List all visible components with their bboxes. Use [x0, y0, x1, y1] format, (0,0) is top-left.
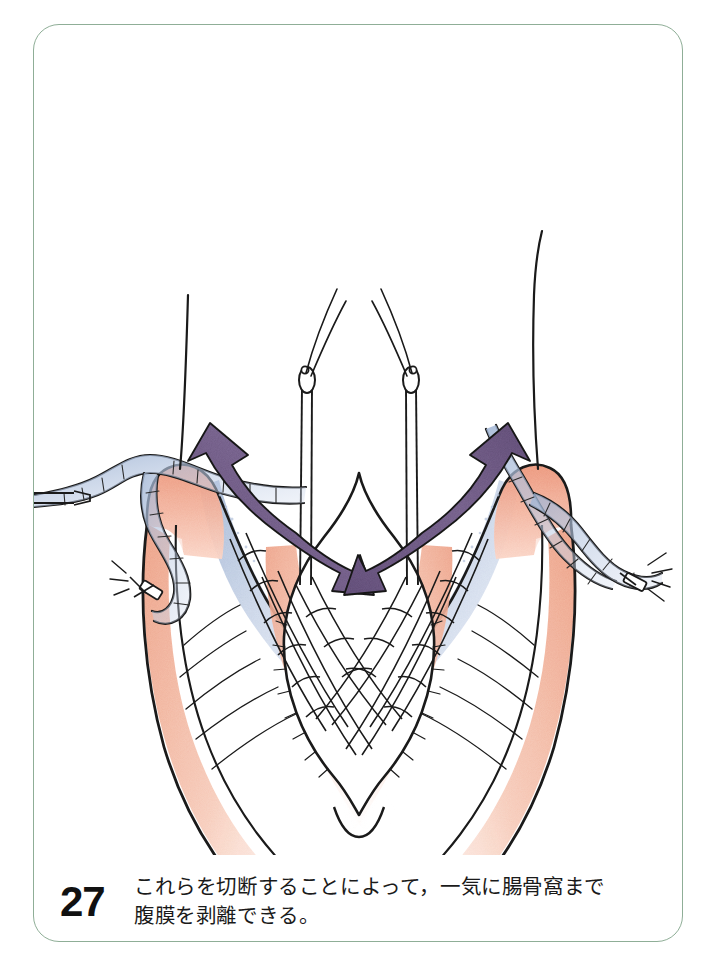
- caption-block: 27 これらを切断することによって，一気に腸骨窩まで 腹膜を剥離できる。: [34, 853, 684, 943]
- figure-card: 27 これらを切断することによって，一気に腸骨窩まで 腹膜を剥離できる。: [33, 24, 683, 942]
- left-clamp-shaft: [300, 387, 302, 585]
- left-upper-edge: [180, 295, 188, 469]
- left-suture-thread: [306, 289, 346, 376]
- caption-line-2: 腹膜を剥離できる。: [134, 902, 605, 931]
- central-bladder-dome: [266, 473, 453, 837]
- figure-caption: これらを切断することによって，一気に腸骨窩まで 腹膜を剥離できる。: [134, 865, 605, 931]
- right-clamp-shaft: [416, 387, 418, 585]
- left-clip-burst: [110, 561, 129, 595]
- figure-number: 27: [48, 865, 134, 923]
- right-upper-edge: [533, 231, 542, 469]
- illustration-area: [34, 25, 684, 855]
- caption-line-1: これらを切断することによって，一気に腸骨窩まで: [134, 873, 605, 902]
- right-suture-thread: [372, 289, 412, 376]
- surgical-illustration: [34, 25, 684, 855]
- dome-body: [284, 473, 434, 815]
